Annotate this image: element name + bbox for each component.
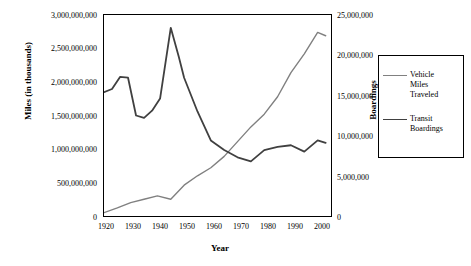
x-tick: 1920 [98, 222, 114, 231]
chart-container: Miles (in thousands) Boardings Year 0 50… [0, 0, 471, 266]
y-left-tick: 0 [93, 213, 97, 222]
x-tick: 1990 [287, 222, 303, 231]
y-right-tick: 5,000,000 [337, 173, 369, 182]
legend: Vehicle Miles Traveled Transit Boardings [378, 55, 464, 158]
legend-swatch-icon [383, 115, 407, 124]
y-right-tick: 25,000,000 [337, 11, 373, 20]
legend-label-line: Miles [410, 80, 428, 89]
y-left-tick: 1,000,000,000 [51, 145, 97, 154]
x-tick: 1960 [206, 222, 222, 231]
y-axis-left-ticks: 0 500,000,000 1,000,000,000 1,500,000,00… [0, 0, 97, 266]
legend-swatch-icon [383, 71, 407, 80]
legend-label-line: Transit [410, 114, 432, 123]
legend-label: Vehicle Miles Traveled [407, 70, 438, 100]
legend-item-transit-boardings: Transit Boardings [383, 114, 463, 134]
y-left-tick: 3,000,000,000 [51, 11, 97, 20]
y-right-tick: 15,000,000 [337, 92, 373, 101]
x-axis-title: Year [110, 243, 330, 253]
y-left-tick: 2,500,000,000 [51, 44, 97, 53]
x-tick: 1940 [152, 222, 168, 231]
x-tick: 2000 [314, 222, 330, 231]
x-tick: 1970 [233, 222, 249, 231]
legend-label-line: Traveled [410, 90, 438, 99]
y-right-tick: 0 [337, 213, 341, 222]
y-right-tick: 10,000,000 [337, 132, 373, 141]
series-lines [104, 15, 331, 216]
legend-label: Transit Boardings [407, 114, 443, 134]
x-tick: 1950 [179, 222, 195, 231]
legend-label-line: Vehicle [410, 70, 434, 79]
y-right-tick: 20,000,000 [337, 51, 373, 60]
y-left-tick: 500,000,000 [57, 179, 97, 188]
x-tick: 1930 [125, 222, 141, 231]
plot-area [103, 14, 332, 217]
y-left-tick: 1,500,000,000 [51, 112, 97, 121]
y-left-tick: 2,000,000,000 [51, 78, 97, 87]
legend-item-vehicle-miles-traveled: Vehicle Miles Traveled [383, 70, 463, 100]
legend-label-line: Boardings [410, 124, 443, 133]
x-tick: 1980 [260, 222, 276, 231]
